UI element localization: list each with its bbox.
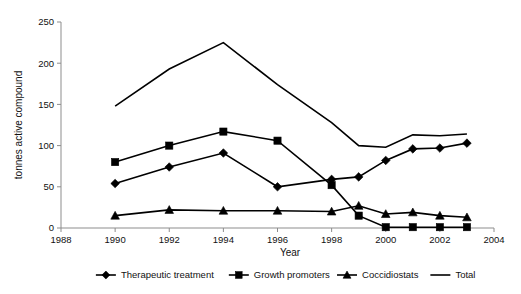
diamond-marker bbox=[436, 144, 445, 153]
y-tick-label: 100 bbox=[38, 140, 54, 151]
diamond-marker bbox=[409, 145, 418, 154]
diamond-marker bbox=[273, 183, 282, 192]
y-tick-label: 50 bbox=[43, 181, 54, 192]
diamond-marker bbox=[111, 179, 120, 188]
series-total bbox=[115, 43, 467, 148]
legend-item-growth-promoters: Growth promoters bbox=[229, 269, 330, 280]
x-tick-label: 1990 bbox=[105, 234, 126, 245]
square-marker bbox=[355, 212, 362, 219]
y-tick-label: 0 bbox=[49, 222, 54, 233]
x-tick-label: 2000 bbox=[375, 234, 396, 245]
x-tick-label: 2004 bbox=[483, 234, 504, 245]
y-tick-label: 200 bbox=[38, 58, 54, 69]
square-marker bbox=[382, 224, 389, 231]
axes bbox=[61, 22, 494, 228]
series-line bbox=[115, 43, 467, 148]
x-axis-title: Year bbox=[280, 247, 301, 258]
diamond-marker bbox=[354, 173, 363, 182]
square-marker bbox=[166, 142, 173, 149]
y-tick-label: 250 bbox=[38, 16, 54, 27]
square-marker bbox=[274, 137, 281, 144]
diamond-marker bbox=[219, 149, 228, 158]
legend-label: Growth promoters bbox=[254, 269, 330, 280]
square-marker bbox=[436, 224, 443, 231]
x-tick-label: 1996 bbox=[267, 234, 288, 245]
square-marker bbox=[328, 182, 335, 189]
y-axis-title: tonnes active compound bbox=[13, 71, 24, 179]
legend-item-total: Total bbox=[430, 269, 475, 280]
legend-item-coccidiostats: Coccidiostats bbox=[337, 269, 419, 280]
line-chart: 050100150200250 198819901992199419961998… bbox=[0, 0, 521, 294]
legend-label: Therapeutic treatment bbox=[121, 269, 214, 280]
square-marker bbox=[463, 224, 470, 231]
x-tick-label: 1998 bbox=[321, 234, 342, 245]
square-marker bbox=[409, 224, 416, 231]
y-tick-label: 150 bbox=[38, 99, 54, 110]
data-series bbox=[111, 43, 471, 231]
square-marker bbox=[236, 272, 243, 279]
x-tick-label: 1988 bbox=[50, 234, 71, 245]
x-tick-label: 1994 bbox=[213, 234, 234, 245]
diamond-marker bbox=[102, 271, 110, 279]
series-coccidiostats bbox=[111, 201, 471, 220]
diamond-marker bbox=[165, 163, 174, 172]
chart-container: 050100150200250 198819901992199419961998… bbox=[0, 0, 521, 294]
triangle-marker bbox=[354, 201, 363, 209]
x-tick-label: 2002 bbox=[429, 234, 450, 245]
diamond-marker bbox=[381, 156, 390, 165]
legend-label: Coccidiostats bbox=[362, 269, 419, 280]
square-marker bbox=[112, 158, 119, 165]
legend-item-therapeutic-treatment: Therapeutic treatment bbox=[96, 269, 214, 280]
y-axis-ticks: 050100150200250 bbox=[38, 16, 61, 233]
legend-label: Total bbox=[455, 269, 475, 280]
diamond-marker bbox=[463, 139, 472, 148]
square-marker bbox=[220, 128, 227, 135]
chart-legend: Therapeutic treatmentGrowth promotersCoc… bbox=[96, 269, 476, 280]
x-tick-label: 1992 bbox=[159, 234, 180, 245]
